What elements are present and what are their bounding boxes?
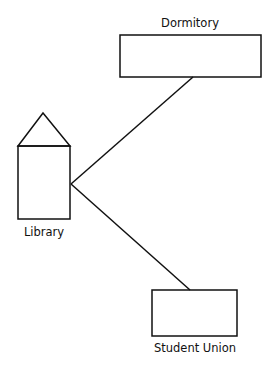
student-union-box xyxy=(152,290,237,336)
student-union-label: Student Union xyxy=(154,341,236,355)
dormitory-label: Dormitory xyxy=(161,16,219,30)
library-label: Library xyxy=(24,225,64,239)
campus-diagram xyxy=(0,0,273,372)
library-roof xyxy=(18,113,70,146)
library-box xyxy=(18,146,70,219)
dormitory-box xyxy=(120,35,261,77)
edge-library-student-union xyxy=(71,184,190,290)
edge-library-dormitory xyxy=(71,77,193,184)
